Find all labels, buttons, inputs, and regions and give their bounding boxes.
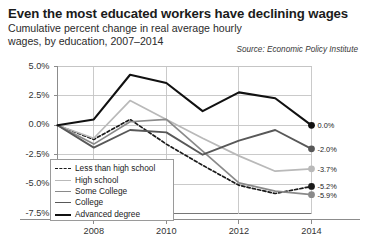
y-tick-label: -5.0%	[10, 178, 50, 188]
y-tick-label: 2.5%	[10, 90, 50, 100]
legend-swatch-icon	[55, 198, 71, 207]
y-tick-label: -7.5%	[10, 208, 50, 218]
series-endpoint-1	[308, 165, 315, 172]
legend-item-label: Advanced degree	[75, 210, 140, 219]
series-line-4	[58, 75, 312, 126]
legend-swatch-icon	[55, 210, 71, 219]
chart-page: Even the most educated workers have decl…	[0, 0, 366, 251]
legend-item-0[interactable]: Less than high school	[55, 163, 169, 174]
series-end-label: -3.7%	[318, 165, 337, 174]
series-endpoint-4	[308, 122, 315, 129]
legend-item-2[interactable]: Some College	[55, 186, 169, 197]
series-end-label: 0.0%	[318, 121, 335, 130]
legend-swatch-icon	[55, 164, 71, 173]
series-endpoint-3	[308, 145, 315, 152]
legend-swatch-icon	[55, 187, 71, 196]
chart-legend: Less than high schoolHigh schoolSome Col…	[50, 159, 174, 221]
legend-item-label: Some College	[75, 187, 127, 196]
x-tick-label: 2010	[146, 226, 186, 236]
x-tick-label: 2008	[74, 226, 114, 236]
x-tick-label: 2012	[219, 226, 259, 236]
series-end-label: -2.0%	[318, 145, 337, 154]
y-tick-label: -2.5%	[10, 149, 50, 159]
legend-item-label: Less than high school	[75, 164, 155, 173]
legend-item-3[interactable]: College	[55, 197, 169, 208]
legend-swatch-icon	[55, 176, 71, 185]
series-endpoint-2	[308, 191, 315, 198]
series-end-label: -5.9%	[318, 191, 337, 200]
series-endpoint-0	[308, 183, 315, 190]
legend-item-1[interactable]: High school	[55, 174, 169, 185]
y-tick-label: 5.0%	[10, 61, 50, 71]
legend-item-4[interactable]: Advanced degree	[55, 209, 169, 220]
y-tick-label: 0.0%	[10, 119, 50, 129]
legend-item-label: College	[75, 198, 103, 207]
x-tick-label: 2014	[292, 226, 332, 236]
legend-item-label: High school	[75, 176, 118, 185]
